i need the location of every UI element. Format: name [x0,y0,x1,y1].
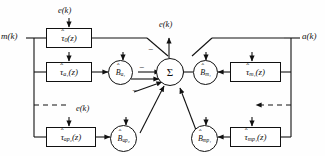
gain-node-B-m1-label: Bm₁ [200,68,211,77]
input-label-right: a(k) [302,32,317,41]
wire-minus-stub-diagonal [134,82,162,92]
filter-block-tau-0-label: τ0(z) [61,33,77,43]
error-label-top-left: e(k) [58,6,71,15]
sign-lower-left: − [132,85,137,95]
gain-node-B-mp1-label: Bmp₁ [198,134,211,143]
summing-junction[interactable]: Σ [156,58,184,86]
gain-node-B-m1[interactable]: Bm₁ [193,60,218,85]
wire-B-ap2-to-sum [140,86,164,133]
filter-block-tau-a1-label: τa₁(z) [60,67,78,77]
gain-node-B-mp1[interactable]: Bmp₁ [191,125,218,152]
filter-block-tau-mp1-label: τmp₁(z) [244,132,266,142]
filter-block-tau-ap2-label: τap₂(z) [61,132,82,142]
filter-block-tau-a1[interactable]: τa₁(z) [46,62,92,82]
filter-block-tau-m1[interactable]: τm₁(z) [230,62,281,82]
wire-right-top-to-sum [192,38,212,56]
gain-node-B-ap2-label: Bap₂ [118,134,130,143]
filter-block-tau-mp1[interactable]: τmp₁(z) [230,127,281,147]
filter-block-tau-0[interactable]: τ0(z) [46,28,92,48]
input-label-left: m(k) [1,32,18,41]
error-label-center: e(k) [159,20,172,29]
block-diagram: m(k) a(k) e(k) e(k) e(k) τ0(z) τa₁(z) τa… [0,0,325,156]
gain-node-B-ap2[interactable]: Bap₂ [110,125,137,152]
wire-B-mp1-to-sum [180,88,196,130]
sign-upper-left: − [139,62,144,72]
filter-block-tau-m1-label: τm₁(z) [246,67,265,77]
gain-node-B-a1[interactable]: Ba₁ [108,60,133,85]
sign-top: − [148,44,153,54]
gain-node-B-a1-label: Ba₁ [116,68,125,77]
error-label-mid-left: e(k) [76,104,89,113]
filter-block-tau-ap2[interactable]: τap₂(z) [46,127,96,147]
summing-junction-label: Σ [167,66,173,78]
